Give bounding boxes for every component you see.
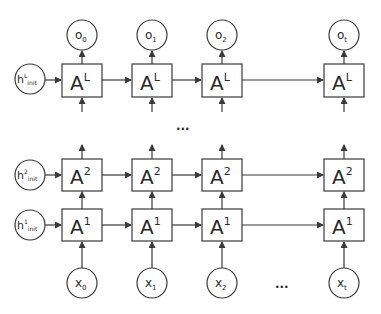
input-node-t: xt (329, 268, 359, 298)
output-node-0: o0 (67, 20, 97, 50)
cell-2-0: A2 (62, 159, 102, 191)
layer-ellipsis: ... (176, 119, 190, 133)
cell-1-2: A1 (202, 209, 242, 241)
layer-L: hLinit AL AL AL AL (15, 51, 364, 112)
layer-1: h1init A1 A1 A1 A1 (15, 209, 364, 241)
output-node-t: ot (329, 20, 359, 50)
cell-2-2: A2 (202, 159, 242, 191)
input-node-2: x2 (207, 268, 237, 298)
cell-2-t: A2 (324, 159, 364, 191)
time-ellipsis: ... (275, 277, 289, 291)
cell-L-0: AL (62, 64, 102, 97)
output-nodes: o0 o1 o2 ot (67, 20, 359, 50)
cell-2-1: A2 (132, 159, 172, 191)
cell-L-2: AL (202, 64, 242, 97)
output-node-2: o2 (207, 20, 237, 50)
input-node-0: x0 (67, 268, 97, 298)
input-nodes: x0 x1 x2 xt (67, 268, 359, 298)
cell-L-1: AL (132, 64, 172, 97)
layer-2: h2init A2 A2 A2 A2 (15, 145, 364, 191)
cell-1-0: A1 (62, 209, 102, 241)
input-node-1: x1 (137, 268, 167, 298)
stacked-rnn-diagram: hLinit AL AL AL AL (0, 0, 381, 314)
cell-L-t: AL (324, 64, 364, 97)
output-node-1: o1 (137, 20, 167, 50)
cell-1-1: A1 (132, 209, 172, 241)
cell-1-t: A1 (324, 209, 364, 241)
